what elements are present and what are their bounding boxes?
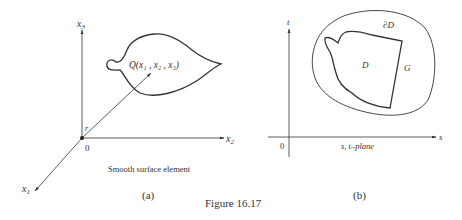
surface-caption: Smooth surface element [108, 164, 191, 174]
origin-dot [80, 136, 84, 140]
t-axis-label: t [287, 17, 290, 27]
origin-label-b: 0 [280, 141, 284, 151]
figure-caption: Figure 16.17 [205, 197, 262, 209]
panel-b: t s 0 s, t–plane ∂D D G (b) [268, 11, 443, 202]
panel-b-sublabel: (b) [353, 189, 366, 202]
region-G-label: G [404, 63, 411, 73]
x2-axis-label: x2 [225, 133, 234, 146]
outer-boundary-dD [312, 11, 434, 116]
plane-label: s, t–plane [341, 141, 374, 151]
panel-a-sublabel: (a) [142, 189, 155, 202]
x3-axis-label: x3 [76, 18, 85, 31]
s-axis-label: s [439, 132, 443, 142]
origin-label-a: 0 [85, 143, 90, 153]
position-vector-r [82, 73, 151, 138]
region-D-label: D [361, 60, 369, 70]
x1-axis [35, 138, 82, 191]
figure-canvas: x3 x2 x1 r 0 Q(x₁ , x₂ , x₃) Smooth surf… [0, 0, 462, 220]
point-q-label: Q(x₁ , x₂ , x₃) [129, 60, 179, 71]
boundary-dD-label: ∂D [383, 20, 394, 30]
x1-axis-label: x1 [21, 183, 30, 196]
panel-a: x3 x2 x1 r 0 Q(x₁ , x₂ , x₃) Smooth surf… [21, 18, 234, 202]
